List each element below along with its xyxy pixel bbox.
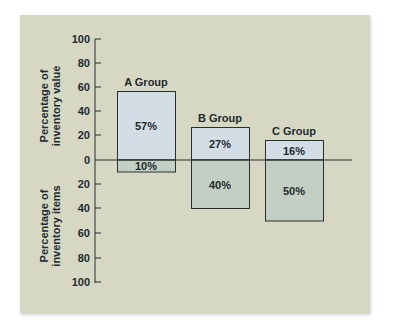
- svg-text:100: 100: [72, 276, 90, 288]
- bar-value-lower: 50%: [283, 185, 305, 197]
- bar-value-upper: 16%: [283, 145, 305, 157]
- bar-value-lower: 40%: [209, 179, 231, 191]
- y-axis-label-upper: Percentage of inventory value: [38, 66, 62, 147]
- bar-value-lower: 10%: [135, 160, 157, 172]
- bar-group-c: C Group 16% 50%: [266, 125, 324, 221]
- svg-text:80: 80: [78, 252, 90, 264]
- y-tick-labels-upper: 100 80 60 40 20 0: [72, 33, 90, 166]
- svg-text:inventory value: inventory value: [50, 66, 62, 147]
- svg-text:Percentage of: Percentage of: [38, 189, 50, 262]
- bar-value-upper: 57%: [135, 120, 157, 132]
- y-tick-labels-lower: 20 40 60 80 100: [72, 178, 90, 288]
- svg-text:0: 0: [84, 154, 90, 166]
- svg-text:100: 100: [72, 33, 90, 45]
- abc-chart: Percentage of inventory value Percentage…: [0, 0, 393, 325]
- svg-text:40: 40: [78, 202, 90, 214]
- group-label: A Group: [124, 76, 168, 88]
- svg-text:60: 60: [78, 81, 90, 93]
- svg-text:80: 80: [78, 57, 90, 69]
- bar-value-upper: 27%: [209, 138, 231, 150]
- bar-group-a: A Group 57% 10%: [118, 76, 176, 172]
- y-ticks-upper: [95, 39, 101, 135]
- svg-text:40: 40: [78, 105, 90, 117]
- svg-text:60: 60: [78, 227, 90, 239]
- svg-text:Percentage of: Percentage of: [38, 69, 50, 142]
- y-axis-label-lower: Percentage of inventory items: [38, 185, 62, 266]
- svg-text:20: 20: [78, 129, 90, 141]
- group-label: C Group: [272, 125, 316, 137]
- svg-text:20: 20: [78, 178, 90, 190]
- svg-text:inventory items: inventory items: [50, 185, 62, 266]
- y-ticks-lower: [95, 184, 101, 282]
- group-label: B Group: [198, 112, 242, 124]
